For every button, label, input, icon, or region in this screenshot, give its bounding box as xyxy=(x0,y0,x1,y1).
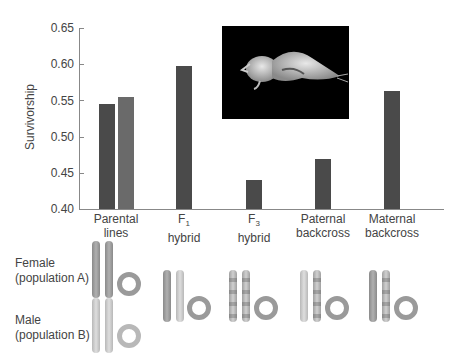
y-tick-mark xyxy=(79,28,84,29)
category-subscript: 3 xyxy=(255,219,259,228)
category-line2: hybrid xyxy=(214,231,294,245)
chromosome-f1-1 xyxy=(163,270,171,322)
male-label-line1: Male xyxy=(15,313,90,328)
male-label: Male (population B) xyxy=(15,313,90,343)
y-tick-label: 0.50 xyxy=(40,130,74,144)
chromosome-paternal-1 xyxy=(300,270,308,322)
mito-ring-paternal xyxy=(325,296,349,320)
category-line1: F1 xyxy=(144,212,224,231)
category-line2: hybrid xyxy=(144,231,224,245)
copepod-image xyxy=(222,26,349,119)
category-line1: Maternal xyxy=(352,212,432,226)
bar-f3-hybrid xyxy=(246,180,262,209)
category-line2: backcross xyxy=(352,226,432,240)
y-tick-label: 0.65 xyxy=(40,21,74,35)
y-axis-line xyxy=(79,28,80,209)
chromosome-f1-2 xyxy=(176,270,184,322)
bar-paternal-backcross xyxy=(315,159,331,209)
category-line1: F3 xyxy=(214,212,294,231)
chromosome-f3-2 xyxy=(242,270,250,322)
y-tick-label: 0.60 xyxy=(40,57,74,71)
category-subscript: 1 xyxy=(185,219,189,228)
y-tick-mark xyxy=(79,173,84,174)
category-label-f3: F3 hybrid xyxy=(214,212,294,245)
category-label-maternal: Maternal backcross xyxy=(352,212,432,240)
bar-maternal-backcross xyxy=(384,91,400,209)
chromosome-male-1 xyxy=(92,298,100,353)
y-tick-label: 0.40 xyxy=(40,202,74,216)
male-label-line2: (population B) xyxy=(15,328,90,343)
y-tick-mark xyxy=(79,100,84,101)
chromosome-f3-1 xyxy=(229,270,237,322)
mito-ring-maternal xyxy=(394,296,418,320)
mito-ring-female xyxy=(117,272,141,296)
mito-ring-f3 xyxy=(254,296,278,320)
female-label-line2: (population A) xyxy=(15,271,89,286)
chromosome-female-2 xyxy=(105,241,113,298)
category-line1: Paternal xyxy=(283,212,363,226)
chromosome-male-2 xyxy=(105,298,113,353)
category-line2: backcross xyxy=(283,226,363,240)
chromosome-maternal-1 xyxy=(369,270,377,322)
y-tick-label: 0.55 xyxy=(40,94,74,108)
chromosome-paternal-2 xyxy=(313,270,321,322)
y-tick-mark xyxy=(79,137,84,138)
category-label-paternal: Paternal backcross xyxy=(283,212,363,240)
y-axis-label: Survivorship xyxy=(23,77,37,157)
female-label: Female (population A) xyxy=(15,256,89,286)
y-tick-mark xyxy=(79,64,84,65)
chromosome-maternal-2 xyxy=(382,270,390,322)
category-label-f1: F1 hybrid xyxy=(144,212,224,245)
mito-ring-f1 xyxy=(187,296,211,320)
bar-f1-hybrid xyxy=(176,66,192,209)
mito-ring-male xyxy=(117,324,141,348)
bar-parental-a xyxy=(99,104,115,209)
chromosome-female-1 xyxy=(92,241,100,298)
x-axis-line xyxy=(79,209,444,210)
female-label-line1: Female xyxy=(15,256,89,271)
copepod-photo xyxy=(222,26,349,119)
bar-parental-b xyxy=(118,97,134,209)
y-tick-label: 0.45 xyxy=(40,166,74,180)
